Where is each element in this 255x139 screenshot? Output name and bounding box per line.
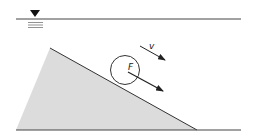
- water-surface: [16, 10, 241, 28]
- slope-wedge: [16, 48, 197, 130]
- particle-circle: [111, 56, 140, 85]
- force-label: F: [128, 62, 134, 72]
- diagram-canvas: F v: [0, 0, 255, 139]
- water-level-marker-icon: [30, 10, 40, 17]
- velocity-label: v: [149, 41, 155, 51]
